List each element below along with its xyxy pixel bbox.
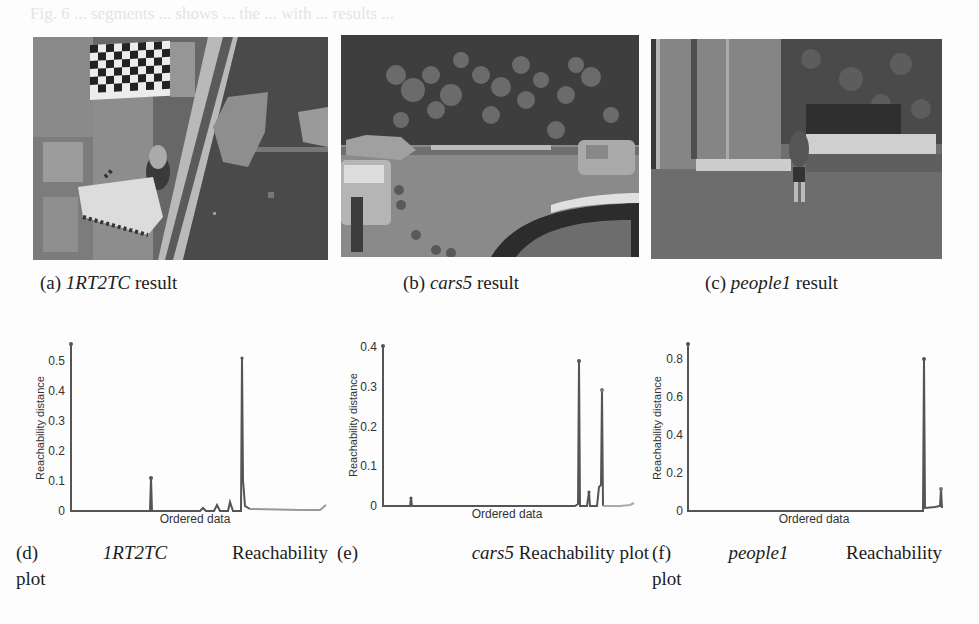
svg-text:0.8: 0.8 — [666, 352, 683, 366]
dataset-name: cars5 — [472, 542, 514, 563]
dataset-name: people1 — [728, 540, 788, 566]
y-axis-title: Reachability distance — [651, 376, 663, 480]
svg-text:0: 0 — [676, 504, 683, 518]
caption-f: (f) people1 Reachability plot — [652, 540, 942, 592]
svg-text:0.2: 0.2 — [666, 466, 683, 480]
caption-d: (d) 1RT2TC Reachability plot — [16, 540, 328, 592]
svg-text:0.4: 0.4 — [666, 428, 683, 442]
caption-e: (e) cars5 Reachability plot — [337, 540, 649, 566]
svg-text:0.6: 0.6 — [666, 390, 683, 404]
x-axis-title: Ordered data — [779, 512, 850, 526]
dataset-name: 1RT2TC — [103, 540, 167, 566]
